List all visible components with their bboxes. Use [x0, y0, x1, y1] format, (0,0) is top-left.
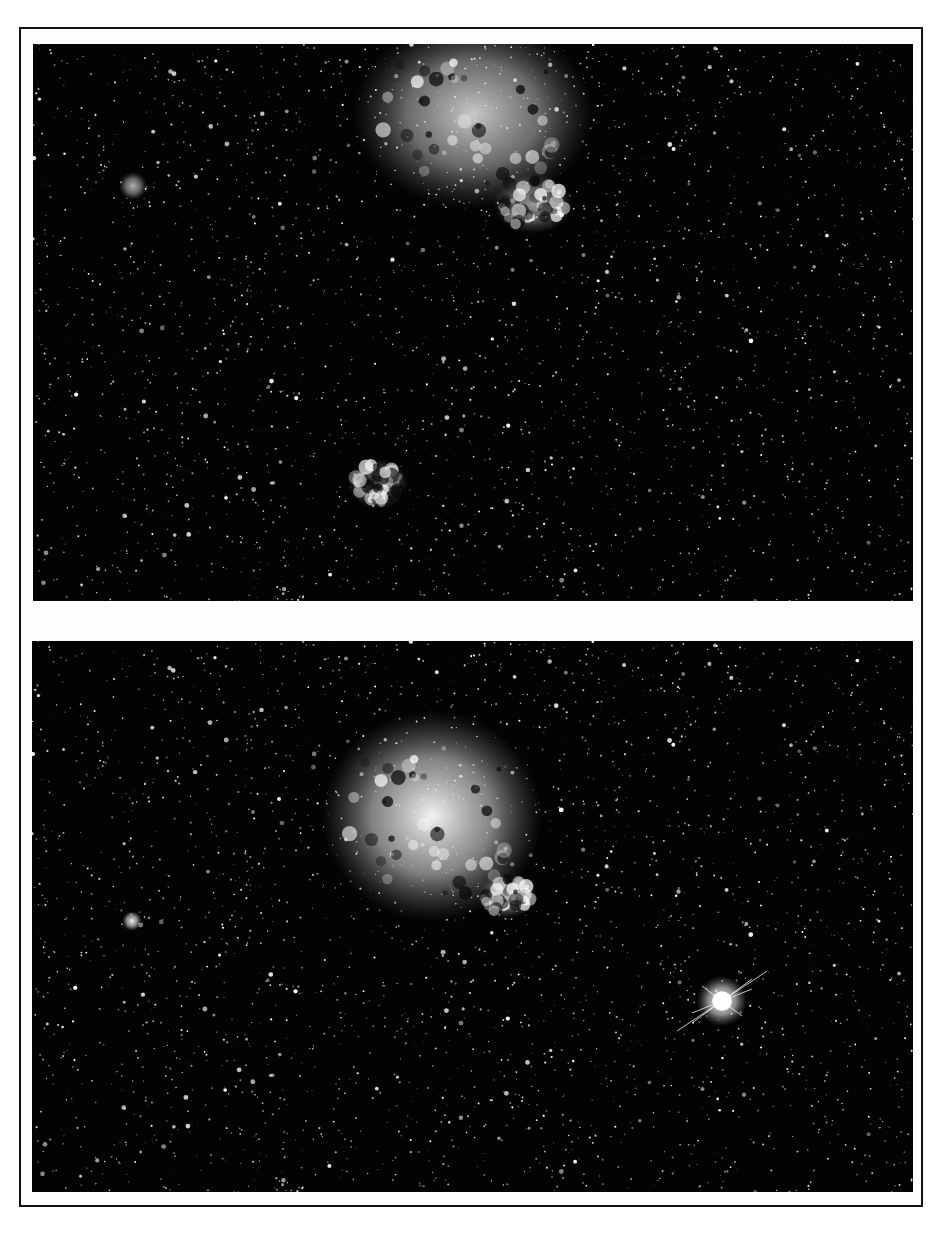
- photo-panel-bottom: [32, 641, 913, 1192]
- starfield-top: [33, 44, 913, 601]
- photo-panel-top: [33, 44, 913, 601]
- starfield-bottom: [32, 641, 913, 1192]
